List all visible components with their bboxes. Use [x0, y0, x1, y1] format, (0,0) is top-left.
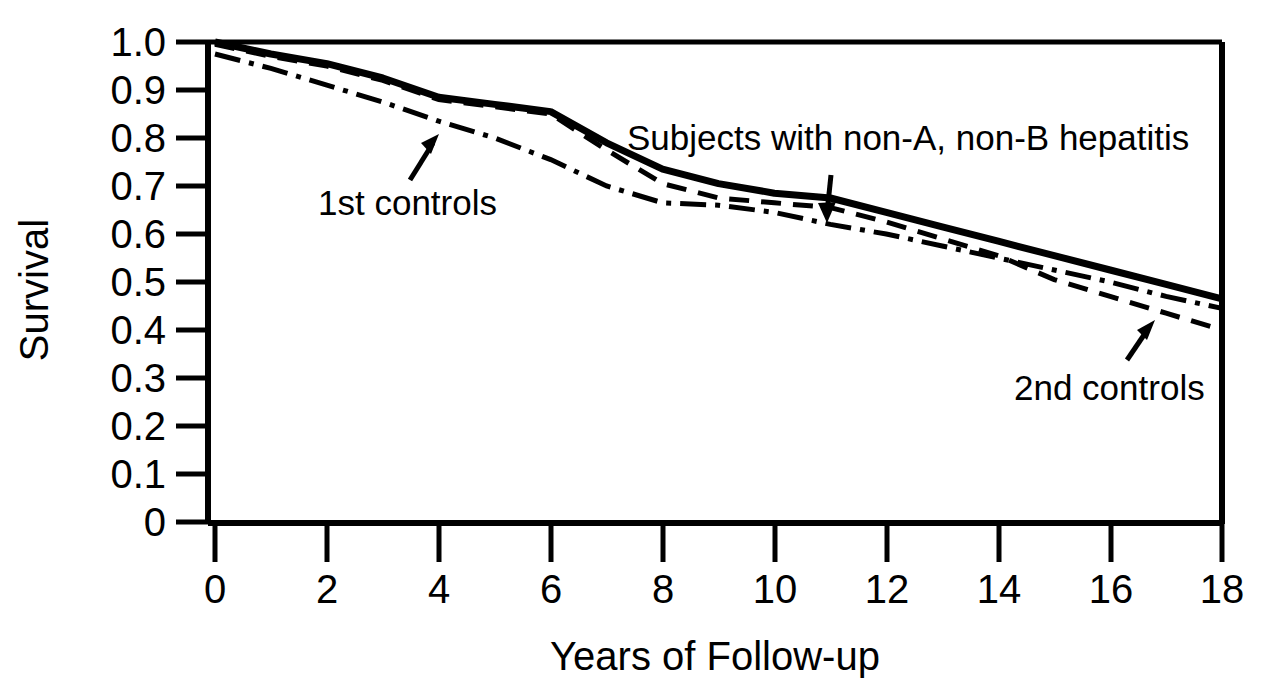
x-tick-label: 10 [753, 567, 798, 611]
y-axis-ticks [176, 42, 208, 522]
annotation-label-second-controls: 2nd controls [1014, 368, 1205, 407]
survival-chart-figure: 1.0 0.9 0.8 0.7 0.6 0.5 0.4 0.3 0.2 0.1 … [0, 0, 1267, 700]
x-tick-label: 0 [204, 567, 226, 611]
x-axis-title: Years of Follow-up [550, 634, 880, 678]
x-tick-label: 12 [865, 567, 910, 611]
x-axis-tick-labels: 0 2 4 6 8 10 12 14 16 18 [204, 567, 1244, 611]
x-tick-label: 2 [316, 567, 338, 611]
annotation-second-controls: 2nd controls [1014, 320, 1205, 407]
annotation-label-hepatitis: Subjects with non-A, non-B hepatitis [627, 118, 1189, 157]
series-line-hepatitis [215, 42, 1222, 299]
y-tick-label: 0.4 [110, 308, 166, 352]
annotation-label-first-controls: 1st controls [318, 183, 497, 222]
y-tick-label: 0.6 [110, 212, 166, 256]
y-tick-label: 0.7 [110, 164, 166, 208]
y-tick-label: 0.1 [110, 452, 166, 496]
y-tick-label: 0.8 [110, 116, 166, 160]
y-tick-label: 0.9 [110, 68, 166, 112]
x-tick-label: 6 [540, 567, 562, 611]
x-tick-label: 16 [1089, 567, 1134, 611]
x-tick-label: 4 [428, 567, 450, 611]
x-tick-label: 14 [977, 567, 1022, 611]
x-tick-label: 18 [1200, 567, 1245, 611]
y-axis-title: Survival [12, 219, 56, 361]
y-tick-label: 1.0 [110, 20, 166, 64]
y-tick-label: 0.3 [110, 356, 166, 400]
y-tick-label: 0 [144, 500, 166, 544]
annotation-hepatitis: Subjects with non-A, non-B hepatitis [627, 118, 1189, 223]
y-tick-label: 0.5 [110, 260, 166, 304]
x-axis-ticks [215, 523, 1222, 562]
annotation-first-controls: 1st controls [318, 134, 497, 222]
y-tick-label: 0.2 [110, 404, 166, 448]
chart-canvas: 1.0 0.9 0.8 0.7 0.6 0.5 0.4 0.3 0.2 0.1 … [0, 0, 1267, 700]
x-tick-label: 8 [652, 567, 674, 611]
y-axis-tick-labels: 1.0 0.9 0.8 0.7 0.6 0.5 0.4 0.3 0.2 0.1 … [110, 20, 166, 544]
